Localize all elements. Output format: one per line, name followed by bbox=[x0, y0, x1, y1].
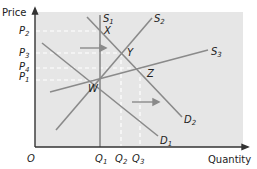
point-label-z: Z bbox=[146, 68, 155, 79]
y-axis-arrowhead bbox=[33, 8, 38, 14]
price-label-p2: P2 bbox=[19, 25, 30, 38]
point-label-x: X bbox=[103, 25, 112, 36]
quantity-label-q1: Q1 bbox=[95, 153, 107, 166]
quantity-label-q2: Q2 bbox=[115, 153, 128, 166]
price-label-p3: P3 bbox=[19, 47, 30, 60]
origin-label: O bbox=[27, 153, 35, 164]
point-label-w: W bbox=[88, 83, 99, 94]
x-axis-arrowhead bbox=[242, 145, 248, 150]
supply-demand-diagram: Price Quantity O P2 P3 P4 P1 Q1 Q2 Q3 S1… bbox=[0, 0, 257, 169]
point-label-y: Y bbox=[127, 47, 134, 58]
x-axis-label: Quantity bbox=[208, 154, 251, 165]
y-axis-label: Price bbox=[2, 7, 26, 18]
quantity-label-q3: Q3 bbox=[132, 153, 144, 166]
